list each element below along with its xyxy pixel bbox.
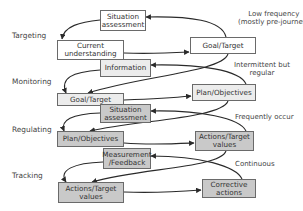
level-label-tracking: Tracking xyxy=(12,171,43,180)
arrow-goal-to-plan xyxy=(124,96,191,100)
note-text: Frequently occur xyxy=(235,113,294,121)
arrow-current-to-goal xyxy=(124,52,189,53)
note-text: Intermittent but xyxy=(234,61,290,69)
level-label-targeting: Targeting xyxy=(12,31,46,40)
note-low-frequency: Low frequency(mostly pre-journey) xyxy=(238,10,303,26)
note-continuous: Continuous xyxy=(235,160,275,168)
arrow-situation-to-plan xyxy=(63,113,100,131)
node-text: values xyxy=(213,140,236,149)
node-corrective-actions: Correctiveactions xyxy=(202,179,256,198)
node-actions-target-right: Actions/Targetvalues xyxy=(195,131,254,151)
node-text: Plan/Objectives xyxy=(63,135,119,143)
node-text: Information xyxy=(105,64,147,72)
node-plan-objectives-right: Plan/Objectives xyxy=(192,84,256,101)
level-label-monitoring: Monitoring xyxy=(12,77,52,86)
arrow-actions-to-corrective xyxy=(124,190,201,192)
note-text: Low frequency xyxy=(248,10,299,18)
node-current-understanding: Currentunderstanding xyxy=(57,40,124,60)
node-information: Information xyxy=(100,59,151,77)
arrow-plan-to-information xyxy=(151,65,246,84)
node-actions-target-left: Actions/Targetvalues xyxy=(58,182,124,203)
arrow-measurement-to-actions xyxy=(64,162,103,182)
note-text: Continuous xyxy=(235,160,275,168)
node-text: Plan/Objectives xyxy=(196,89,252,97)
node-text: assessment xyxy=(102,20,145,29)
node-text: values xyxy=(79,192,102,201)
node-text: actions xyxy=(216,188,242,197)
arrow-situation-to-current xyxy=(62,20,100,39)
arrow-corrective-to-measurement xyxy=(151,156,242,179)
node-text: understanding xyxy=(64,49,116,58)
note-frequently-occur: Frequently occur xyxy=(235,113,294,121)
note-intermittent: Intermittent butregular xyxy=(234,61,290,77)
level-label-regulating: Regulating xyxy=(12,125,52,134)
node-text: Goal/Target xyxy=(70,96,111,104)
arrow-plan-to-actions xyxy=(124,143,194,144)
node-text: Goal/Target xyxy=(202,42,243,50)
node-situation-assessment-mid: Situationassessment xyxy=(100,104,151,123)
note-text: regular xyxy=(249,69,274,77)
node-situation-assessment-top: Situationassessment xyxy=(100,10,146,31)
note-text: (mostly pre-journey) xyxy=(238,18,303,26)
arrow-information-to-goal xyxy=(64,70,100,93)
node-plan-objectives-left: Plan/Objectives xyxy=(57,131,124,147)
node-text: /Feedback xyxy=(109,158,146,167)
node-text: assessment xyxy=(104,113,147,122)
arrow-goal-to-situation xyxy=(146,17,226,37)
node-goal-target-right: Goal/Target xyxy=(190,37,256,54)
node-measurement-feedback: Measurement/Feedback xyxy=(103,148,151,169)
